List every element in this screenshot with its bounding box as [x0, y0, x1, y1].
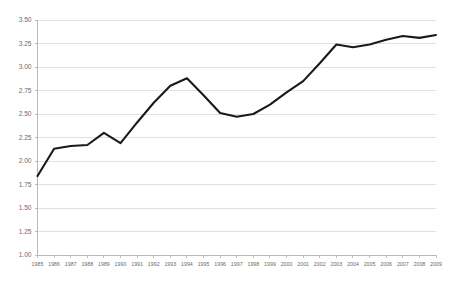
y-axis-tick-labels: 1.001.251.501.752.002.252.502.753.003.25… — [19, 16, 32, 258]
x-axis-tick-label: 1995 — [198, 261, 210, 267]
x-axis-tick-label: 2006 — [380, 261, 392, 267]
x-axis-tick-label: 2003 — [330, 261, 342, 267]
x-axis-tick-label: 1999 — [264, 261, 276, 267]
y-axis-tick-label: 2.00 — [19, 157, 32, 164]
y-axis-tick-label: 3.00 — [19, 63, 32, 70]
x-axis-tick-label: 1994 — [181, 261, 193, 267]
x-axis-tick-label: 1986 — [48, 261, 60, 267]
y-axis-tick-label: 3.50 — [19, 16, 32, 23]
line-chart: 1.001.251.501.752.002.252.502.753.003.25… — [0, 0, 451, 288]
x-axis-tick-labels: 1985198619871988198919901991199219931994… — [32, 261, 442, 267]
x-axis-tick-label: 1989 — [98, 261, 110, 267]
y-axis-tick-label: 1.25 — [19, 228, 32, 235]
chart-canvas: 1.001.251.501.752.002.252.502.753.003.25… — [0, 0, 451, 288]
x-axis-tick-label: 1987 — [65, 261, 77, 267]
x-axis-tick-label: 1990 — [115, 261, 127, 267]
x-axis-tick-label: 1992 — [148, 261, 160, 267]
y-axis-tick-label: 1.75 — [19, 181, 32, 188]
x-axis-tick-label: 1988 — [81, 261, 93, 267]
data-series-line — [38, 35, 437, 176]
x-axis-tick-label: 2002 — [314, 261, 326, 267]
y-axis-tick-label: 1.50 — [19, 204, 32, 211]
x-axis-tick-label: 2001 — [297, 261, 309, 267]
x-axis-tick-label: 2008 — [413, 261, 425, 267]
x-axis-tick-label: 1996 — [214, 261, 226, 267]
y-axis-tick-label: 2.50 — [19, 110, 32, 117]
x-axis-tick-label: 1985 — [32, 261, 44, 267]
y-axis-tick-label: 3.25 — [19, 40, 32, 47]
x-axis-tick-label: 2000 — [281, 261, 293, 267]
x-axis-tick-label: 1997 — [231, 261, 243, 267]
x-axis-tick-label: 2005 — [364, 261, 376, 267]
x-axis-tick-label: 1991 — [131, 261, 143, 267]
y-axis-tick-label: 1.00 — [19, 251, 32, 258]
x-axis-tick-label: 2009 — [430, 261, 442, 267]
y-axis-tick-label: 2.75 — [19, 87, 32, 94]
x-axis-tick-label: 1998 — [247, 261, 259, 267]
x-axis-tick-label: 2004 — [347, 261, 359, 267]
x-axis-tick-label: 2007 — [397, 261, 409, 267]
gridlines — [35, 20, 437, 255]
x-axis-tick-label: 1993 — [164, 261, 176, 267]
y-axis-tick-label: 2.25 — [19, 134, 32, 141]
